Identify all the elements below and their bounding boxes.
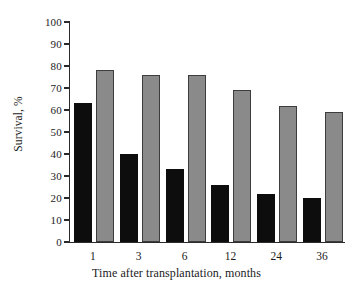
bar-black-series-24	[257, 194, 275, 242]
bar-gray-series-36	[325, 112, 343, 242]
bar-group	[74, 22, 114, 242]
y-tick-mark	[64, 109, 70, 110]
bar-group	[166, 22, 206, 242]
x-axis-title: Time after transplantation, months	[0, 266, 353, 281]
bar-gray-series-24	[279, 106, 297, 242]
y-tick-mark	[64, 87, 70, 88]
y-tick-mark	[64, 175, 70, 176]
survival-bar-chart: 0102030405060708090100 136122436 Surviva…	[0, 0, 353, 292]
y-tick-mark	[64, 153, 70, 154]
x-tick-label: 36	[299, 249, 345, 263]
y-tick-mark	[64, 21, 70, 22]
y-tick-mark	[64, 43, 70, 44]
x-tick-label: 6	[162, 249, 208, 263]
y-tick-label: 0	[56, 234, 62, 250]
bar-black-series-6	[166, 169, 184, 242]
bar-gray-series-12	[233, 90, 251, 242]
x-tick-label: 3	[116, 249, 162, 263]
y-tick-label: 30	[51, 168, 62, 184]
y-tick-label: 100	[45, 14, 62, 30]
y-tick-mark	[64, 219, 70, 220]
bar-gray-series-1	[96, 70, 114, 242]
x-tick-label: 24	[253, 249, 299, 263]
y-tick-mark	[64, 131, 70, 132]
bar-group	[211, 22, 251, 242]
bar-group	[120, 22, 160, 242]
y-tick-label: 10	[51, 212, 62, 228]
bar-black-series-36	[303, 198, 321, 242]
x-tick-label: 1	[70, 249, 116, 263]
bar-black-series-12	[211, 185, 229, 242]
bar-black-series-1	[74, 103, 92, 242]
y-tick-label: 60	[51, 102, 62, 118]
y-tick-label: 90	[51, 36, 62, 52]
bar-gray-series-3	[142, 75, 160, 242]
y-tick-mark	[64, 241, 70, 242]
plot-area: 0102030405060708090100	[70, 22, 345, 242]
y-tick-label: 20	[51, 190, 62, 206]
y-tick-label: 50	[51, 124, 62, 140]
bar-gray-series-6	[188, 75, 206, 242]
y-tick-mark	[64, 197, 70, 198]
bar-black-series-3	[120, 154, 138, 242]
bar-group	[303, 22, 343, 242]
y-tick-label: 80	[51, 58, 62, 74]
y-tick-label: 40	[51, 146, 62, 162]
x-tick-label: 12	[208, 249, 254, 263]
bar-group	[257, 22, 297, 242]
y-tick-mark	[64, 65, 70, 66]
y-axis-title: Survival, %	[12, 64, 24, 184]
y-tick-label: 70	[51, 80, 62, 96]
